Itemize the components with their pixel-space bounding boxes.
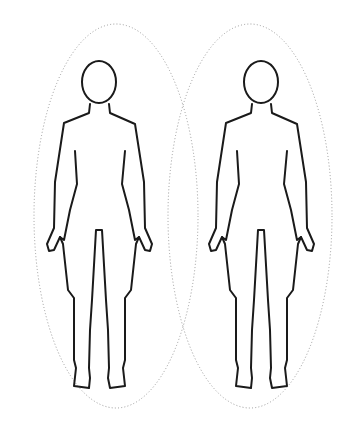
body-outlines-illustration: Body outline (left) Body outline (right) <box>0 0 360 432</box>
